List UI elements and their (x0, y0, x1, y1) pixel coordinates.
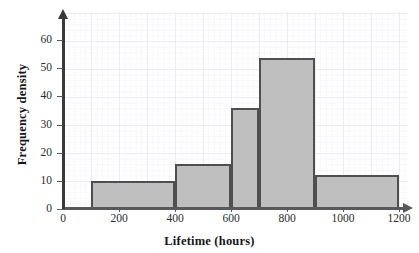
y-axis-tick-mark (57, 153, 63, 154)
x-axis-line (63, 207, 405, 210)
y-axis-tick-mark (57, 125, 63, 126)
x-axis-tick-label: 0 (60, 213, 66, 225)
x-axis-title: Lifetime (hours) (0, 234, 419, 249)
histogram-bar (175, 164, 231, 209)
histogram-bar (91, 181, 175, 209)
x-axis-tick-label: 1000 (332, 213, 355, 225)
y-axis-tick-mark (57, 96, 63, 97)
x-axis-tick-label: 200 (110, 213, 127, 225)
y-axis-tick-label: 0 (46, 203, 52, 215)
y-axis-tick-mark (57, 181, 63, 182)
y-axis-tick-label: 30 (41, 119, 53, 131)
y-axis-tick-label: 10 (41, 175, 53, 187)
histogram-chart: 0102030405060 020040060080010001200 Life… (0, 0, 419, 253)
y-axis-tick-label: 60 (41, 34, 53, 46)
y-axis-tick-mark (57, 68, 63, 69)
x-axis-tick-label: 400 (166, 213, 183, 225)
y-axis-title: Frequency density (15, 15, 30, 215)
histogram-bar (259, 58, 315, 209)
histogram-bar (231, 108, 259, 209)
y-axis-tick-label: 40 (41, 90, 53, 102)
y-axis-tick-label: 50 (41, 62, 53, 74)
x-axis-tick-label: 600 (222, 213, 239, 225)
y-axis-tick-mark (57, 40, 63, 41)
y-axis-tick-mark (57, 209, 63, 210)
histogram-bar (315, 175, 399, 209)
y-axis-tick-label: 20 (41, 147, 53, 159)
x-axis-tick-label: 1200 (388, 213, 411, 225)
x-axis-tick-label: 800 (278, 213, 295, 225)
y-axis-arrow-icon (58, 9, 68, 19)
